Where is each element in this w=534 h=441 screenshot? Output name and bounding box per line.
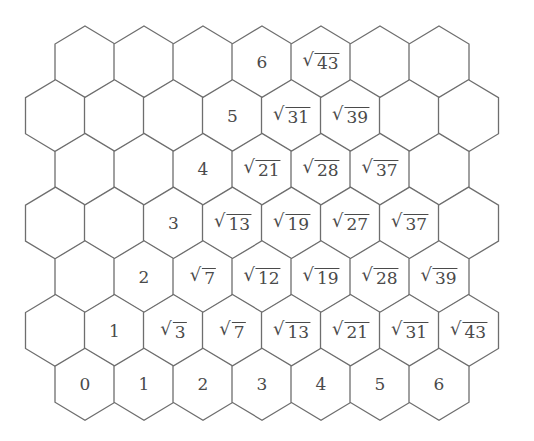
hex-cell-label: 5 [375,376,386,393]
radicand: 7 [232,322,246,341]
radical-sign-icon: √ [391,212,402,230]
radicand: 28 [315,160,340,179]
radical-sign-icon: √ [273,105,284,123]
square-root-expression: √21 [243,159,280,179]
radical-sign-icon: √ [391,320,402,338]
hex-cell-label: √39 [332,106,369,126]
radicand: 31 [403,322,428,341]
hex-cell-label: √28 [361,267,398,287]
hex-cell-label: √31 [273,106,310,126]
radical-sign-icon: √ [332,105,343,123]
square-root-expression: √13 [214,213,251,233]
radical-sign-icon: √ [273,320,284,338]
square-root-expression: √39 [332,106,369,126]
radical-sign-icon: √ [332,320,343,338]
radicand: 43 [462,322,487,341]
radicand: 31 [285,107,310,126]
radical-sign-icon: √ [243,158,254,176]
radicand: 3 [173,322,187,341]
hex-cell-label: √7 [219,321,245,341]
radicand: 13 [226,214,251,233]
radical-sign-icon: √ [450,320,461,338]
radical-sign-icon: √ [273,212,284,230]
square-root-expression: √39 [420,267,457,287]
hex-cell-label: 0 [80,376,91,393]
hex-cell-label: √43 [450,321,487,341]
square-root-expression: √13 [273,321,310,341]
hex-cell-label: √43 [302,52,339,72]
radical-sign-icon: √ [160,320,171,338]
square-root-expression: √37 [391,213,428,233]
square-root-expression: √28 [361,267,398,287]
square-root-expression: √31 [391,321,428,341]
hex-cell-label: √13 [214,213,251,233]
hex-cell-label: 1 [139,376,150,393]
hex-cell-label: √19 [273,213,310,233]
radicand: 13 [285,322,310,341]
hex-cell-label: √7 [190,267,216,287]
radicand: 21 [256,160,281,179]
hex-cell-label: 1 [109,322,120,339]
radicand: 28 [374,268,399,287]
hex-cell-label: √37 [361,159,398,179]
square-root-expression: √3 [160,321,186,341]
hex-cell-label: 3 [257,376,268,393]
radical-sign-icon: √ [219,320,230,338]
hex-cell-label: 2 [139,268,150,285]
square-root-expression: √27 [332,213,369,233]
radical-sign-icon: √ [302,51,313,69]
radicand: 39 [433,268,458,287]
square-root-expression: √7 [219,321,245,341]
radical-sign-icon: √ [214,212,225,230]
radical-sign-icon: √ [190,266,201,284]
radicand: 19 [315,268,340,287]
radical-sign-icon: √ [302,266,313,284]
square-root-expression: √19 [302,267,339,287]
radical-sign-icon: √ [420,266,431,284]
hex-cell-label: √27 [332,213,369,233]
hex-cell-label: 3 [168,215,179,232]
square-root-expression: √43 [450,321,487,341]
hex-cell-label: √3 [160,321,186,341]
radicand: 12 [256,268,281,287]
hex-cell-label: √13 [273,321,310,341]
radicand: 21 [344,322,369,341]
radical-sign-icon: √ [302,158,313,176]
square-root-expression: √43 [302,52,339,72]
hex-cell-label: √31 [391,321,428,341]
hex-cell-label: √21 [243,159,280,179]
hex-cell-label: 2 [198,376,209,393]
hex-cell-label: 6 [434,376,445,393]
radicand: 43 [315,53,340,72]
hex-cell-label: √21 [332,321,369,341]
radicand: 37 [374,160,399,179]
radicand: 39 [344,107,369,126]
hex-cell-label: 4 [198,161,209,178]
hex-cell-label: √39 [420,267,457,287]
hex-cell-label: √37 [391,213,428,233]
square-root-expression: √21 [332,321,369,341]
radicand: 27 [344,214,369,233]
square-root-expression: √7 [190,267,216,287]
radicand: 37 [403,214,428,233]
square-root-expression: √31 [273,106,310,126]
radical-sign-icon: √ [243,266,254,284]
square-root-expression: √19 [273,213,310,233]
radical-sign-icon: √ [332,212,343,230]
hex-cell-label: 6 [257,54,268,71]
radicand: 7 [202,268,216,287]
square-root-expression: √12 [243,267,280,287]
radicand: 19 [285,214,310,233]
hex-cell-label: √28 [302,159,339,179]
square-root-expression: √37 [361,159,398,179]
hex-cell-label: 4 [316,376,327,393]
hex-cell-label: √19 [302,267,339,287]
hex-cell-label: √12 [243,267,280,287]
radical-sign-icon: √ [361,158,372,176]
radical-sign-icon: √ [361,266,372,284]
hex-cell-label: 5 [227,107,238,124]
square-root-expression: √28 [302,159,339,179]
